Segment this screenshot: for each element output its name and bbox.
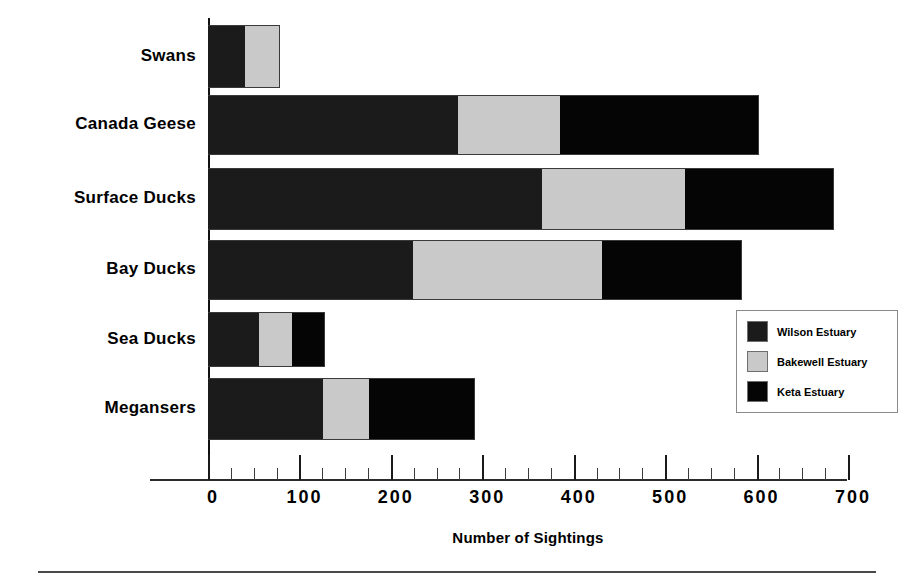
- tick-major: [299, 455, 301, 480]
- tick-minor: [505, 468, 506, 480]
- tick-label: 500: [652, 487, 688, 508]
- tick-minor: [437, 468, 438, 480]
- stacked-bar: [208, 95, 759, 155]
- legend-swatch-icon: [747, 381, 768, 402]
- category-label: Surface Ducks: [0, 188, 196, 208]
- tick-minor: [459, 468, 460, 480]
- tick-major: [665, 455, 667, 480]
- legend-swatch-icon: [747, 321, 768, 342]
- legend-item: Keta Estuary: [747, 381, 889, 402]
- category-axis-labels: SwansCanada GeeseSurface DucksBay DucksS…: [0, 0, 196, 470]
- tick-minor: [802, 468, 803, 480]
- tick-label: 0: [207, 487, 219, 508]
- bar-segment: [208, 241, 413, 299]
- stacked-bar: [208, 312, 325, 367]
- bar-segment: [208, 96, 458, 154]
- legend-item: Bakewell Estuary: [747, 351, 889, 372]
- bar-segment: [458, 96, 560, 154]
- bar-chart: SwansCanada GeeseSurface DucksBay DucksS…: [0, 0, 909, 583]
- bar-segment: [685, 169, 834, 229]
- tick-label: 100: [286, 487, 322, 508]
- tick-minor: [322, 468, 323, 480]
- tick-minor: [231, 468, 232, 480]
- stacked-bar: [208, 168, 834, 230]
- category-label: Sea Ducks: [0, 329, 196, 349]
- tick-major: [757, 455, 759, 480]
- tick-major: [848, 455, 850, 480]
- bar-segment: [413, 241, 602, 299]
- tick-minor: [277, 468, 278, 480]
- footer-divider: [38, 571, 876, 573]
- bar-segment: [208, 169, 542, 229]
- tick-minor: [254, 468, 255, 480]
- tick-minor: [345, 468, 346, 480]
- tick-minor: [414, 468, 415, 480]
- tick-minor: [642, 468, 643, 480]
- tick-label: 700: [835, 487, 871, 508]
- tick-label: 300: [469, 487, 505, 508]
- legend-label: Bakewell Estuary: [777, 356, 868, 368]
- bar-segment: [292, 313, 324, 366]
- tick-label: 200: [378, 487, 414, 508]
- bar-segment: [323, 379, 369, 439]
- bar-segment: [369, 379, 474, 439]
- bar-segment: [602, 241, 741, 299]
- legend-label: Keta Estuary: [777, 386, 844, 398]
- stacked-bar: [208, 378, 475, 440]
- tick-major: [391, 455, 393, 480]
- tick-minor: [551, 468, 552, 480]
- legend-swatch-icon: [747, 351, 768, 372]
- bar-segment: [208, 26, 245, 87]
- tick-minor: [779, 468, 780, 480]
- tick-minor: [825, 468, 826, 480]
- tick-minor: [711, 468, 712, 480]
- tick-minor: [688, 468, 689, 480]
- category-label: Canada Geese: [0, 114, 196, 134]
- category-label: Megansers: [0, 398, 196, 418]
- legend-label: Wilson Estuary: [777, 326, 856, 338]
- legend: Wilson EstuaryBakewell EstuaryKeta Estua…: [736, 310, 898, 413]
- stacked-bar: [208, 240, 742, 300]
- category-label: Bay Ducks: [0, 259, 196, 279]
- tick-minor: [368, 468, 369, 480]
- bar-segment: [542, 169, 684, 229]
- tick-label: 400: [561, 487, 597, 508]
- tick-label: 600: [744, 487, 780, 508]
- tick-minor: [734, 468, 735, 480]
- x-axis-ticks: [0, 455, 909, 480]
- tick-major: [208, 455, 210, 480]
- tick-minor: [528, 468, 529, 480]
- legend-item: Wilson Estuary: [747, 321, 889, 342]
- bar-segment: [560, 96, 758, 154]
- bar-segment: [259, 313, 293, 366]
- tick-minor: [597, 468, 598, 480]
- bar-segment: [208, 379, 323, 439]
- category-label: Swans: [0, 46, 196, 66]
- tick-minor: [619, 468, 620, 480]
- bar-segment: [208, 313, 259, 366]
- stacked-bar: [208, 25, 280, 88]
- tick-major: [482, 455, 484, 480]
- bar-segment: [245, 26, 279, 87]
- tick-major: [574, 455, 576, 480]
- x-axis-title: Number of Sightings: [208, 529, 848, 546]
